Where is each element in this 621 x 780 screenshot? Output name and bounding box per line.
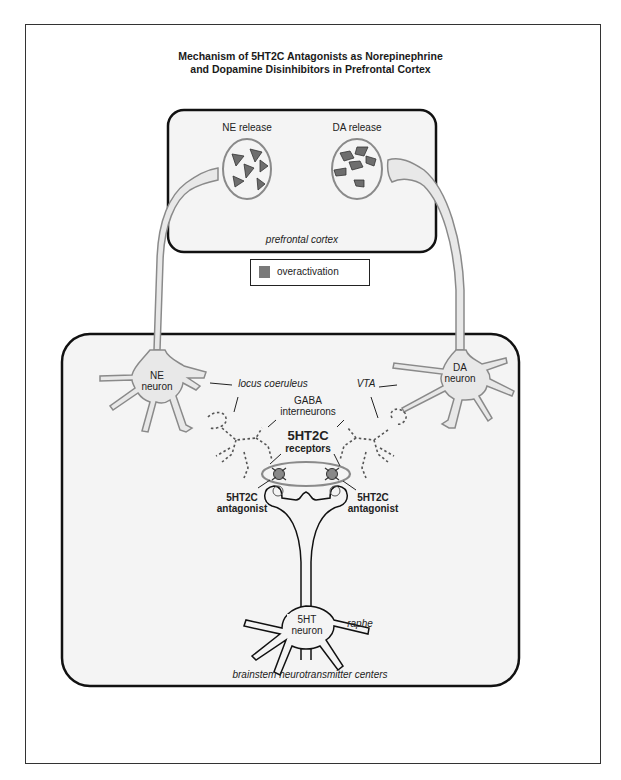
5ht-neuron-label: 5HT neuron xyxy=(287,614,327,636)
ne-vesicle xyxy=(223,139,271,199)
prefrontal-cortex-label: prefrontal cortex xyxy=(242,234,362,245)
da-neuron-label: DA neuron xyxy=(440,362,480,384)
brainstem-label: brainstem neurotransmitter centers xyxy=(210,669,410,680)
gaba-interneurons-label: GABA interneurons xyxy=(276,395,340,417)
legend-label: overactivation xyxy=(277,266,339,277)
5ht2c-receptors-label: 5HT2C receptors xyxy=(270,428,346,454)
5ht2c-antagonist-right-label: 5HT2C antagonist xyxy=(345,492,401,514)
ne-release-label: NE release xyxy=(217,122,277,133)
mechanism-diagram xyxy=(0,0,621,780)
raphe-label: raphe xyxy=(340,618,380,629)
ne-neuron-label: NE neuron xyxy=(137,370,177,392)
receptor-right-icon xyxy=(325,468,339,480)
overactivation-swatch xyxy=(259,266,270,278)
receptor-left-icon xyxy=(272,468,286,480)
5ht2c-antagonist-left-label: 5HT2C antagonist xyxy=(214,492,270,514)
legend: overactivation xyxy=(250,259,370,286)
da-vesicle xyxy=(332,139,382,199)
da-release-label: DA release xyxy=(327,122,387,133)
locus-coeruleus-label: locus coeruleus xyxy=(238,378,308,389)
vta-label: VTA xyxy=(354,378,378,389)
